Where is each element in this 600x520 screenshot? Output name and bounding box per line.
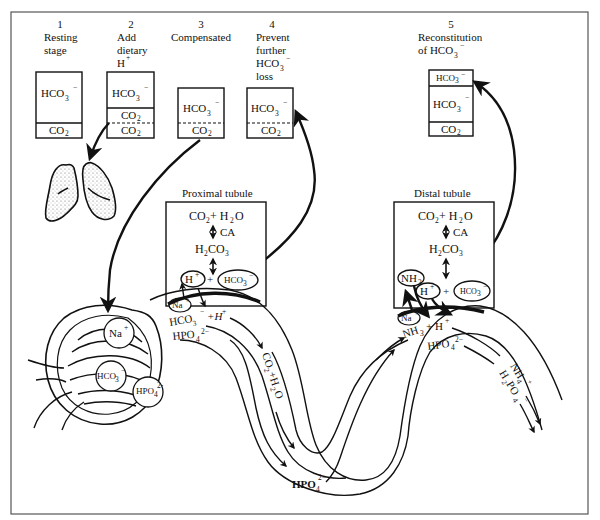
stage-5-box: HCO3− HCO3− CO2 [429,70,473,137]
svg-text:4: 4 [154,390,158,399]
svg-text:2: 2 [459,216,463,225]
svg-text:4: 4 [511,396,521,404]
svg-text:2: 2 [65,129,69,138]
stage-2-box: HCO3− CO2 CO2 [107,72,154,138]
svg-text:+: + [126,53,130,62]
svg-text:+: + [195,270,199,279]
distal-tubule-title: Distal tubule [414,187,471,199]
svg-text:+: + [525,378,535,386]
phosphate-flow-arrow [230,340,286,466]
svg-text:−: − [121,366,125,375]
svg-text:HCO: HCO [224,275,244,285]
svg-text:3: 3 [420,329,424,338]
svg-text:NH: NH [401,324,420,340]
svg-text:CA: CA [220,226,235,238]
svg-text:HCO: HCO [433,98,456,110]
svg-text:H: H [185,273,193,285]
svg-text:HCO: HCO [112,87,135,99]
svg-text:+ H: + H [210,209,229,223]
svg-text:3: 3 [457,105,461,114]
svg-text:3: 3 [243,279,247,288]
svg-text:4: 4 [269,18,275,30]
stage-1-box: HCO3− CO2 [36,72,82,138]
svg-text:CO: CO [121,124,136,136]
stage-3-box: HCO3− CO2 [178,88,224,138]
svg-text:HCO: HCO [168,312,193,328]
svg-text:−: − [249,271,253,280]
svg-text:−: − [465,93,469,102]
loop-phosphate-label: HPO42− [292,473,326,494]
svg-text:2: 2 [230,216,234,225]
svg-text:CA: CA [453,226,468,238]
svg-text:+ H: + H [426,320,443,332]
svg-text:3: 3 [207,109,211,118]
svg-text:HPO: HPO [136,386,155,396]
stage-5-label: 5 Reconstitution of HCO3− [418,18,483,60]
svg-text:3: 3 [275,109,279,118]
svg-text:HCO: HCO [256,57,279,69]
svg-text:CO: CO [189,209,206,223]
svg-text:−: − [460,41,464,50]
tubule-inner-wall [180,333,542,495]
svg-text:5: 5 [448,18,454,30]
stage-3-label: 3 Compensated [171,18,231,43]
svg-text:3: 3 [136,94,140,103]
svg-text:H: H [429,242,438,256]
svg-text:−: − [286,54,290,63]
svg-text:+H: +H [207,310,223,322]
svg-text:3: 3 [198,18,204,30]
svg-text:H: H [195,242,204,256]
svg-text:3: 3 [65,94,69,103]
svg-text:HPO: HPO [292,478,316,490]
proximal-lumen-labels: HCO 3 − +H+ HPO42− [168,307,226,344]
svg-text:HCO: HCO [436,73,456,83]
svg-text:of HCO: of HCO [418,44,453,56]
svg-text:3: 3 [280,64,284,73]
svg-text:3: 3 [225,249,229,258]
svg-text:−: − [200,307,204,316]
svg-text:CO: CO [49,124,64,136]
svg-text:−: − [461,70,465,79]
svg-text:loss: loss [256,70,273,82]
proximal-tubule-title: Proximal tubule [182,187,253,199]
svg-text:HCO: HCO [41,87,64,99]
svg-text:HCO: HCO [97,371,117,381]
lungs-icon [45,163,115,221]
svg-text:−: − [483,282,487,291]
svg-text:2-: 2- [157,381,164,390]
svg-text:+: + [443,285,449,297]
ascending-arrow-inner [326,350,394,482]
svg-text:H: H [117,57,125,69]
svg-text:CO: CO [418,209,435,223]
glomerulus [28,305,162,430]
svg-text:3: 3 [455,76,459,85]
svg-text:2: 2 [137,129,141,138]
svg-text:1: 1 [57,18,63,30]
svg-text:CO: CO [260,351,276,369]
svg-text:2: 2 [137,114,141,123]
svg-text:3: 3 [192,318,198,328]
svg-text:CO: CO [121,109,136,121]
h2po4-out-arrow [520,404,534,432]
stage-1-label: 1 Resting stage [44,18,78,56]
svg-text:4: 4 [451,343,455,352]
svg-text:HCO: HCO [251,102,274,114]
svg-text:2: 2 [277,129,281,138]
svg-text:−: − [73,83,77,92]
svg-text:HPO: HPO [427,337,451,352]
svg-text:CO: CO [442,242,459,256]
svg-text:Na: Na [109,327,122,339]
svg-text:2−: 2− [201,327,209,336]
svg-text:3: 3 [115,375,119,384]
svg-text:2: 2 [457,128,461,137]
svg-text:3: 3 [459,249,463,258]
svg-text:+: + [430,282,434,291]
svg-text:further: further [256,44,286,56]
svg-text:Compensated: Compensated [171,31,231,43]
svg-text:2: 2 [208,129,212,138]
svg-text:−: − [215,98,219,107]
svg-text:NH: NH [401,272,417,284]
svg-text:H: H [420,285,428,297]
stage-4-box: HCO3− CO2 [247,88,293,138]
svg-text:Reconstitution: Reconstitution [418,31,483,43]
